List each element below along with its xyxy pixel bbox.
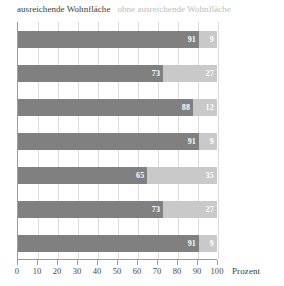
plot-area: 9197327881291965357327919 bbox=[17, 22, 217, 260]
bar-segment-ohne-ausreichende: 35 bbox=[147, 167, 217, 184]
bar-segment-ohne-ausreichende: 27 bbox=[163, 201, 217, 218]
bar-value-label: 73 bbox=[152, 205, 160, 214]
x-tick bbox=[217, 260, 218, 265]
x-axis-ticks bbox=[17, 260, 218, 265]
bar-row: 919 bbox=[18, 31, 217, 48]
legend-label-ohne-ausreichende: ohne ausreichende Wohnfläche bbox=[117, 4, 230, 15]
bar-row: 919 bbox=[18, 133, 217, 150]
x-tick bbox=[57, 260, 58, 265]
x-tick bbox=[97, 260, 98, 265]
bar-segment-ausreichende: 73 bbox=[18, 65, 163, 82]
bar-value-label: 88 bbox=[182, 103, 190, 112]
x-tick-label: 10 bbox=[33, 266, 42, 277]
x-tick-label: 90 bbox=[193, 266, 202, 277]
legend-item-ohne-ausreichende: ohne ausreichende Wohnfläche bbox=[117, 4, 230, 15]
x-tick-label: 70 bbox=[153, 266, 162, 277]
x-tick bbox=[117, 260, 118, 265]
bar-row: 7327 bbox=[18, 65, 217, 82]
x-tick-label: 50 bbox=[113, 266, 122, 277]
bar-segment-ausreichende: 73 bbox=[18, 201, 163, 218]
bar-segment-ohne-ausreichende: 9 bbox=[199, 31, 217, 48]
bar-segment-ohne-ausreichende: 27 bbox=[163, 65, 217, 82]
bar-row: 8812 bbox=[18, 99, 217, 116]
bar-value-label: 9 bbox=[210, 239, 214, 248]
chart-legend: ausreichende Wohnfläche ohne ausreichend… bbox=[17, 1, 281, 17]
bar-segment-ausreichende: 91 bbox=[18, 31, 199, 48]
gridline bbox=[218, 22, 219, 259]
stacked-bar-chart: ausreichende Wohnfläche ohne ausreichend… bbox=[0, 0, 284, 286]
bar-segment-ausreichende: 91 bbox=[18, 133, 199, 150]
bar-row: 7327 bbox=[18, 201, 217, 218]
bar-value-label: 27 bbox=[206, 205, 214, 214]
x-tick bbox=[37, 260, 38, 265]
x-tick bbox=[177, 260, 178, 265]
bar-row: 6535 bbox=[18, 167, 217, 184]
x-tick bbox=[157, 260, 158, 265]
bar-segment-ausreichende: 65 bbox=[18, 167, 147, 184]
bar-row: 919 bbox=[18, 235, 217, 252]
bar-value-label: 73 bbox=[152, 69, 160, 78]
bar-segment-ohne-ausreichende: 9 bbox=[199, 235, 217, 252]
bar-value-label: 27 bbox=[206, 69, 214, 78]
x-tick bbox=[77, 260, 78, 265]
bar-value-label: 12 bbox=[206, 103, 214, 112]
bar-value-label: 9 bbox=[210, 35, 214, 44]
bar-value-label: 65 bbox=[136, 171, 144, 180]
bar-value-label: 35 bbox=[206, 171, 214, 180]
bar-value-label: 9 bbox=[210, 137, 214, 146]
x-tick-label: 20 bbox=[53, 266, 62, 277]
x-tick-label: 80 bbox=[173, 266, 182, 277]
bar-value-label: 91 bbox=[188, 239, 196, 248]
x-tick bbox=[137, 260, 138, 265]
bar-value-label: 91 bbox=[188, 137, 196, 146]
bar-segment-ausreichende: 88 bbox=[18, 99, 193, 116]
x-tick-label: 100 bbox=[210, 266, 223, 277]
x-tick-label: 40 bbox=[93, 266, 102, 277]
x-tick-label: 60 bbox=[133, 266, 142, 277]
x-tick-label: 30 bbox=[73, 266, 82, 277]
bar-segment-ohne-ausreichende: 9 bbox=[199, 133, 217, 150]
legend-item-ausreichende: ausreichende Wohnfläche bbox=[17, 4, 110, 15]
bar-series: 9197327881291965357327919 bbox=[18, 22, 217, 259]
bar-segment-ohne-ausreichende: 12 bbox=[193, 99, 217, 116]
bar-segment-ausreichende: 91 bbox=[18, 235, 199, 252]
legend-label-ausreichende: ausreichende Wohnfläche bbox=[17, 4, 110, 15]
x-tick bbox=[197, 260, 198, 265]
bar-value-label: 91 bbox=[188, 35, 196, 44]
x-tick bbox=[17, 260, 18, 265]
x-tick-label: 0 bbox=[15, 266, 19, 277]
x-axis-title: Prozent bbox=[232, 266, 260, 277]
